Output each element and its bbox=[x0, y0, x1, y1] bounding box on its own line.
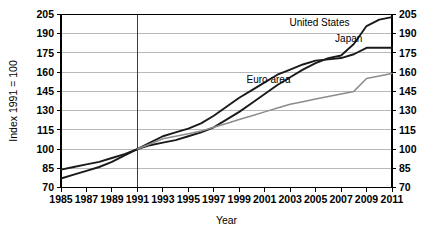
y-axis-tick-label-right: 70 bbox=[399, 181, 411, 193]
y-axis-title: Index 1991 = 100 bbox=[7, 60, 19, 142]
x-axis-tick-label: 1985 bbox=[49, 193, 73, 205]
y-axis-tick-label-right: 145 bbox=[399, 85, 417, 97]
y-axis-tick-label: 205 bbox=[36, 8, 54, 20]
series-label-japan: Japan bbox=[335, 33, 362, 44]
x-axis-tick-label: 2001 bbox=[253, 193, 277, 205]
y-axis-tick-label-right: 115 bbox=[399, 124, 416, 136]
y-axis-tick-label-right: 160 bbox=[399, 66, 417, 78]
y-axis-tick-label: 85 bbox=[42, 162, 54, 174]
y-axis-tick-label-right: 205 bbox=[399, 8, 417, 20]
y-axis-tick-label: 175 bbox=[36, 47, 54, 59]
y-axis-tick-label-right: 85 bbox=[399, 162, 411, 174]
y-axis-tick-label-right: 190 bbox=[399, 27, 417, 39]
x-axis-tick-label: 1987 bbox=[75, 193, 99, 205]
x-axis-tick-label: 2007 bbox=[329, 193, 353, 205]
y-axis-tick-label-right: 175 bbox=[399, 47, 417, 59]
y-axis-tick-label: 100 bbox=[36, 143, 54, 155]
x-axis-tick-label: 1993 bbox=[151, 193, 175, 205]
series-label-euro-area: Euro area bbox=[247, 74, 291, 85]
series-label-united-states: United States bbox=[289, 17, 349, 28]
chart-canvas: 7085100115130145160175190205708510011513… bbox=[0, 0, 447, 238]
y-axis-tick-label: 160 bbox=[36, 66, 54, 78]
y-axis-tick-label-right: 100 bbox=[399, 143, 417, 155]
x-axis-tick-label: 1995 bbox=[177, 193, 201, 205]
y-axis-tick-label: 70 bbox=[42, 181, 54, 193]
series-line-japan bbox=[61, 48, 392, 170]
x-axis-tick-label: 2009 bbox=[355, 193, 379, 205]
x-axis-tick-label: 2011 bbox=[381, 193, 404, 205]
y-axis-tick-label: 130 bbox=[36, 104, 54, 116]
y-axis-tick-label-right: 130 bbox=[399, 104, 417, 116]
y-axis-tick-label: 115 bbox=[37, 124, 54, 136]
x-axis-title: Year bbox=[216, 214, 238, 226]
x-axis-tick-label: 1989 bbox=[100, 193, 124, 205]
x-axis-tick-label: 2005 bbox=[304, 193, 328, 205]
y-axis-tick-label: 145 bbox=[36, 85, 54, 97]
x-axis-tick-label: 2003 bbox=[278, 193, 302, 205]
x-axis-tick-label: 1991 bbox=[126, 193, 150, 205]
y-axis-tick-label: 190 bbox=[36, 27, 54, 39]
x-axis-tick-label: 1999 bbox=[228, 193, 252, 205]
x-axis-tick-label: 1997 bbox=[202, 193, 226, 205]
line-chart: 7085100115130145160175190205708510011513… bbox=[0, 0, 447, 238]
